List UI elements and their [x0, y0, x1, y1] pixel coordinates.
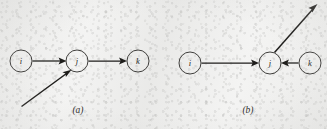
node-j-label: j [268, 58, 272, 68]
graph-diagram: i j k (a) [0, 0, 327, 129]
edge-j-to-external-b-arrowhead [308, 4, 317, 13]
panel-a-caption: (a) [72, 105, 83, 116]
node-k-label: k [136, 56, 140, 66]
node-j-label: j [75, 56, 79, 66]
edge-i-to-j [33, 58, 67, 65]
node-i-panel-a[interactable]: i [10, 50, 32, 72]
node-k-panel-a[interactable]: k [127, 50, 149, 72]
node-j-panel-b[interactable]: j [259, 52, 281, 74]
panel-a: i j k (a) [10, 50, 149, 116]
edge-external-to-j [22, 70, 72, 107]
edge-j-to-k [89, 58, 128, 65]
panel-b: i j k (b) [179, 4, 321, 116]
edge-j-to-external-b-line [275, 10, 313, 53]
node-k-label: k [308, 58, 312, 68]
node-j-panel-a[interactable]: j [66, 50, 88, 72]
edge-j-to-external-b [275, 4, 318, 53]
node-i-label: i [20, 56, 23, 66]
edge-i-to-j-b [202, 60, 260, 67]
edge-external-to-j-line [22, 74, 67, 107]
panel-b-caption: (b) [242, 105, 253, 116]
node-i-panel-b[interactable]: i [179, 52, 201, 74]
node-i-label: i [189, 58, 192, 68]
figure-container: i j k (a) [0, 0, 327, 129]
edge-k-to-j-b [281, 60, 299, 67]
node-k-panel-b[interactable]: k [299, 52, 321, 74]
